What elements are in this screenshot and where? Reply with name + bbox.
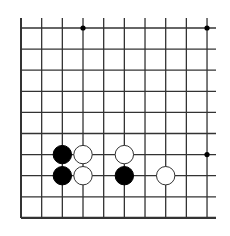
black-stone[interactable] [53,167,71,185]
white-stone[interactable] [156,167,174,185]
white-stone[interactable] [74,145,92,163]
white-stone[interactable] [74,167,92,185]
stones-layer [53,145,175,184]
board-grid [21,18,216,218]
go-board[interactable] [0,0,230,236]
white-stone[interactable] [115,145,133,163]
star-point-icon [204,25,209,30]
star-point-icon [80,25,85,30]
star-point-icon [204,152,209,157]
black-stone[interactable] [53,145,71,163]
black-stone[interactable] [115,167,133,185]
